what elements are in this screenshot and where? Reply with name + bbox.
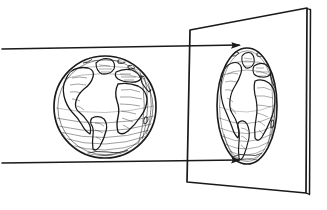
globe-limb — [54, 56, 156, 158]
ray-lower — [2, 160, 239, 163]
projected-greenland — [242, 52, 254, 68]
globe-south-america — [91, 117, 107, 150]
globe — [54, 56, 156, 163]
globe-projection-illustration — [0, 0, 327, 210]
ray-upper — [2, 45, 239, 49]
projected-image — [217, 48, 278, 164]
projected-greenland-hatch — [244, 58, 253, 66]
globe-north-america-detail — [70, 77, 87, 110]
globe-equator — [56, 106, 154, 113]
projection-plane-face — [187, 8, 307, 193]
projected-south-america — [238, 121, 250, 160]
projecting-rays — [2, 42, 241, 163]
figure-container — [0, 0, 327, 210]
projection-plane — [187, 8, 311, 195]
projected-europe-detail — [256, 68, 268, 76]
projection-plane-edge — [310, 10, 311, 195]
globe-europe — [115, 69, 141, 82]
